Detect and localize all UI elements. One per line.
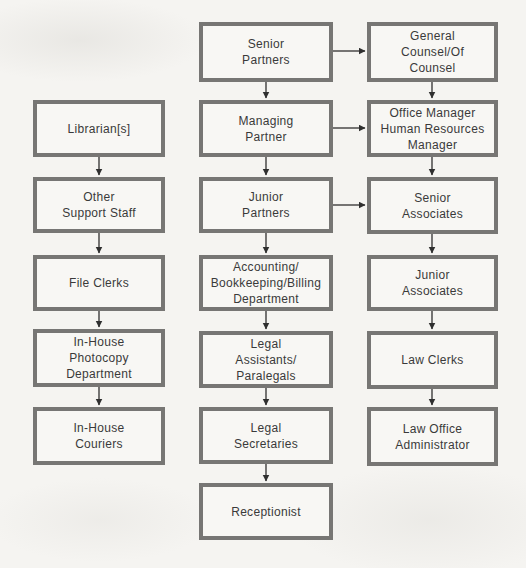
org-box-legal-assistants-paralegals-label: Legal Assistants/ Paralegals bbox=[235, 336, 296, 384]
org-box-legal-secretaries: Legal Secretaries bbox=[199, 407, 333, 464]
org-box-junior-partners-label: Junior Partners bbox=[242, 189, 290, 221]
org-box-senior-associates-label: Senior Associates bbox=[402, 190, 463, 222]
org-box-general-counsel: General Counsel/Of Counsel bbox=[367, 22, 498, 82]
org-box-legal-assistants-paralegals: Legal Assistants/ Paralegals bbox=[199, 331, 333, 388]
org-box-office-manager-label: Office Manager Human Resources Manager bbox=[381, 105, 485, 153]
org-box-office-manager: Office Manager Human Resources Manager bbox=[367, 100, 498, 157]
org-chart-canvas: Librarian[s] Other Support Staff File Cl… bbox=[0, 0, 526, 568]
org-box-receptionist: Receptionist bbox=[199, 483, 333, 540]
org-box-legal-secretaries-label: Legal Secretaries bbox=[234, 420, 298, 452]
org-box-in-house-photocopy-department: In-House Photocopy Department bbox=[33, 329, 165, 387]
org-box-accounting-bookkeeping-billing-department-label: Accounting/ Bookkeeping/Billing Departme… bbox=[211, 259, 321, 307]
org-box-senior-partners-label: Senior Partners bbox=[242, 36, 290, 68]
org-box-other-support-staff-label: Other Support Staff bbox=[62, 189, 136, 221]
org-box-senior-associates: Senior Associates bbox=[367, 177, 498, 234]
org-box-librarians-label: Librarian[s] bbox=[68, 121, 131, 137]
org-box-librarians: Librarian[s] bbox=[33, 100, 165, 157]
org-box-junior-associates: Junior Associates bbox=[367, 255, 498, 311]
org-box-in-house-couriers: In-House Couriers bbox=[33, 407, 165, 465]
org-box-law-office-administrator-label: Law Office Administrator bbox=[395, 421, 470, 453]
org-box-in-house-couriers-label: In-House Couriers bbox=[73, 420, 124, 452]
org-box-junior-partners: Junior Partners bbox=[199, 177, 333, 233]
org-box-accounting-bookkeeping-billing-department: Accounting/ Bookkeeping/Billing Departme… bbox=[199, 255, 333, 311]
org-box-in-house-photocopy-department-label: In-House Photocopy Department bbox=[66, 334, 132, 382]
org-box-file-clerks-label: File Clerks bbox=[69, 275, 129, 291]
org-box-other-support-staff: Other Support Staff bbox=[33, 177, 165, 233]
org-box-managing-partner-label: Managing Partner bbox=[238, 113, 293, 145]
org-box-law-clerks-label: Law Clerks bbox=[401, 352, 463, 368]
org-box-law-office-administrator: Law Office Administrator bbox=[367, 407, 498, 466]
org-box-senior-partners: Senior Partners bbox=[199, 22, 333, 82]
org-box-file-clerks: File Clerks bbox=[33, 255, 165, 311]
org-box-law-clerks: Law Clerks bbox=[367, 331, 498, 389]
org-box-junior-associates-label: Junior Associates bbox=[402, 267, 463, 299]
org-box-receptionist-label: Receptionist bbox=[231, 504, 301, 520]
org-box-managing-partner: Managing Partner bbox=[199, 100, 333, 157]
org-box-general-counsel-label: General Counsel/Of Counsel bbox=[401, 28, 464, 76]
